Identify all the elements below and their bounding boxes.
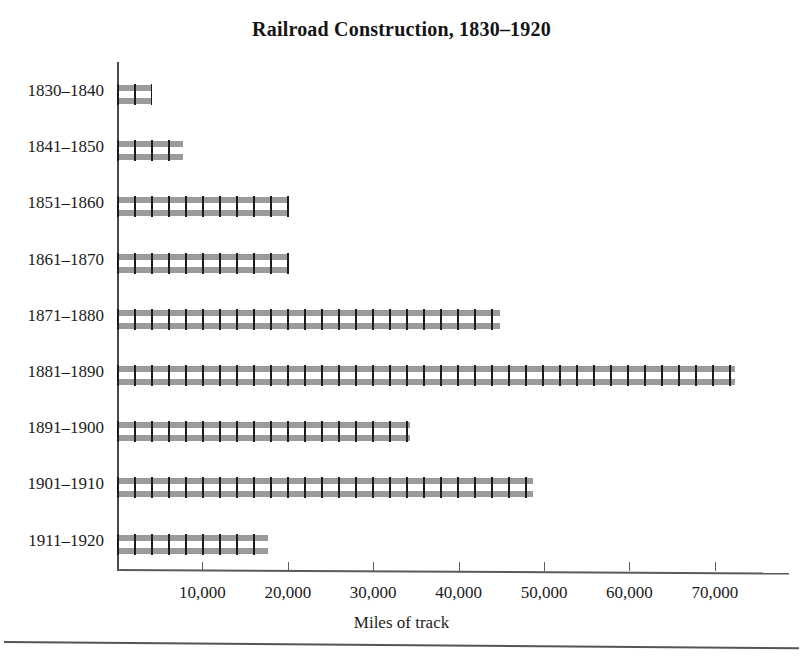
chart-title: Railroad Construction, 1830–1920 [0,18,803,41]
railroad-construction-chart: Railroad Construction, 1830–1920 1830–18… [0,0,803,659]
rail-ties [117,534,268,555]
bar-railroad-track [117,365,735,386]
y-axis-category-label: 1881–1890 [0,362,104,382]
rail-ties [117,253,289,274]
x-axis-title: Miles of track [0,613,803,633]
x-axis-tick-mark [629,562,630,571]
y-axis-category-label: 1891–1900 [0,418,104,438]
y-axis-category-label: 1911–1920 [0,531,104,551]
y-axis-category-label: 1841–1850 [0,137,104,157]
bar-railroad-track [117,534,268,555]
x-axis-tick-mark [715,562,716,571]
rail-ties [117,365,735,386]
x-axis-tick-label: 70,000 [660,583,770,603]
y-axis-category-label: 1871–1880 [0,306,104,326]
page-divider-rule [4,641,799,649]
rail-ties [117,309,500,330]
bar-railroad-track [117,477,533,498]
bar-railroad-track [117,84,152,105]
bar-railroad-track [117,196,289,217]
y-axis-category-label: 1861–1870 [0,250,104,270]
bar-railroad-track [117,253,289,274]
x-axis-tick-mark [202,562,203,571]
rail-ties [117,196,289,217]
rail-ties [117,84,152,105]
x-axis-tick-mark [373,562,374,571]
x-axis-tick-mark [459,562,460,571]
rail-ties [117,477,533,498]
bar-railroad-track [117,309,500,330]
x-axis-tick-mark [288,562,289,571]
x-axis-line [117,569,789,575]
bar-railroad-track [117,421,410,442]
bar-railroad-track [117,140,183,161]
y-axis-category-label: 1830–1840 [0,81,104,101]
x-axis-tick-mark [544,562,545,571]
rail-ties [117,140,183,161]
y-axis-category-label: 1901–1910 [0,474,104,494]
y-axis-category-label: 1851–1860 [0,193,104,213]
rail-ties [117,421,410,442]
